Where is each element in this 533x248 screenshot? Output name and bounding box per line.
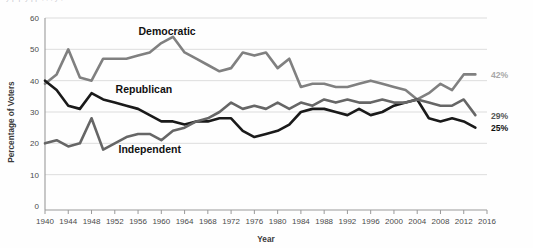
- y-tick-label-40: 40: [30, 77, 39, 86]
- x-tick-label-1960: 1960: [152, 217, 170, 226]
- x-tick-label-2004: 2004: [408, 217, 426, 226]
- x-tick-label-1952: 1952: [106, 217, 124, 226]
- clipped-header-text: y p p y pp , , , y ,: [6, 0, 526, 2]
- x-tick-label-1972: 1972: [222, 217, 240, 226]
- series-line-republican: [45, 81, 475, 137]
- y-axis-title: Percentage of Voters: [7, 81, 16, 163]
- chart-figure: y p p y pp , , , y , 0102030405060 19401…: [0, 0, 533, 248]
- axes-group: [45, 18, 487, 210]
- series-label-independent: Independent: [118, 143, 181, 155]
- y-tick-label-50: 50: [30, 45, 39, 54]
- y-tick-label-0: 0: [35, 202, 40, 211]
- x-tick-label-1976: 1976: [245, 217, 263, 226]
- x-tick-label-2000: 2000: [385, 217, 403, 226]
- party-affiliation-line-chart: 0102030405060 19401944194819521956196019…: [0, 0, 533, 248]
- series-line-independent: [45, 99, 475, 149]
- data-lines-group: [45, 37, 475, 150]
- x-tick-label-1940: 1940: [36, 217, 54, 226]
- x-tick-label-1996: 1996: [362, 217, 380, 226]
- x-tick-label-1968: 1968: [199, 217, 217, 226]
- y-tick-label-60: 60: [30, 14, 39, 23]
- x-tick-labels-group: 1940194419481952195619601964196819721976…: [36, 210, 496, 226]
- y-tick-label-10: 10: [30, 171, 39, 180]
- x-tick-label-1948: 1948: [83, 217, 101, 226]
- x-tick-label-2016: 2016: [478, 217, 496, 226]
- series-label-democratic: Democratic: [139, 25, 196, 37]
- x-tick-label-1944: 1944: [59, 217, 77, 226]
- series-label-republican: Republican: [116, 83, 173, 95]
- end-label-republican: 25%: [491, 123, 509, 133]
- end-value-labels-group: 42%25%29%: [491, 70, 509, 133]
- end-label-democratic: 42%: [491, 70, 509, 80]
- x-axis-title: Year: [257, 235, 275, 244]
- series-line-democratic: [45, 37, 475, 100]
- x-tick-label-1988: 1988: [315, 217, 333, 226]
- x-tick-label-1956: 1956: [129, 217, 147, 226]
- x-tick-label-1992: 1992: [339, 217, 357, 226]
- y-tick-labels-group: 0102030405060: [30, 14, 39, 211]
- y-tick-label-30: 30: [30, 108, 39, 117]
- y-tick-label-20: 20: [30, 139, 39, 148]
- x-tick-label-2008: 2008: [432, 217, 450, 226]
- end-label-independent: 29%: [491, 111, 509, 121]
- x-tick-label-1980: 1980: [269, 217, 287, 226]
- x-tick-label-2012: 2012: [455, 217, 473, 226]
- series-labels-group: DemocraticRepublicanIndependent: [116, 25, 196, 155]
- x-tick-label-1984: 1984: [292, 217, 310, 226]
- x-tick-label-1964: 1964: [176, 217, 194, 226]
